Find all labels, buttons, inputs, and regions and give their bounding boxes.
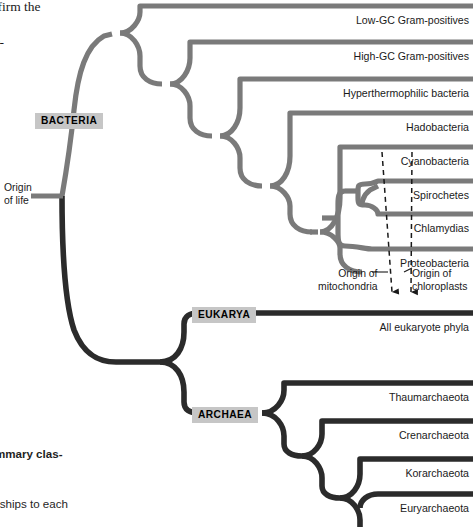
domain-badge-eukarya: EUKARYA [192, 307, 256, 323]
domain-badge-bacteria: BACTERIA [35, 113, 103, 129]
tip-label-high-gc-gram-positives: High-GC Gram-positives [354, 50, 469, 62]
caption-line-2: ows their relationships to each [0, 496, 68, 513]
tip-label-euryarchaeota: Euryarchaeota [400, 502, 469, 514]
caption-lead-in: World This summary clas- [0, 447, 63, 460]
bacteria-clade-branches [62, 6, 473, 272]
tip-label-thaumarchaeota: Thaumarchaeota [389, 391, 469, 403]
tip-label-all-eukaryote-phyla: All eukaryote phyla [379, 321, 469, 333]
tip-label-hyperthermophilic-bacteria: Hyperthermophilic bacteria [343, 87, 469, 99]
origin-of-life-label: Origin of life [4, 182, 32, 207]
tip-label-spirochetes: Spirochetes [413, 189, 469, 201]
tip-label-chlamydias: Chlamydias [414, 222, 469, 234]
endosymbiosis-arrows [382, 152, 412, 292]
figure-caption: World This summary clas- ows their relat… [0, 412, 68, 527]
tip-label-crenarchaeota: Crenarchaeota [399, 429, 469, 441]
tip-label-low-gc-gram-positives: Low-GC Gram-positives [356, 14, 469, 26]
origin-of-mitochondria-label: Origin of mitochondria [318, 268, 378, 293]
page-body-text-middle: differ- rsity o- [0, 34, 4, 85]
tip-label-cyanobacteria: Cyanobacteria [401, 155, 469, 167]
page-body-text-top: confirm the [0, 0, 41, 15]
mitochondria-origin-arrow [382, 152, 392, 292]
domain-badge-archaea: ARCHAEA [192, 407, 258, 423]
origin-of-chloroplasts-label: Origin of chloroplasts [412, 268, 467, 293]
tip-label-korarchaeota: Korarchaeota [405, 467, 469, 479]
phylogenetic-tree-figure: confirm the differ- rsity o- Low-GC Gram… [0, 0, 473, 527]
tip-label-hadobacteria: Hadobacteria [406, 121, 469, 133]
